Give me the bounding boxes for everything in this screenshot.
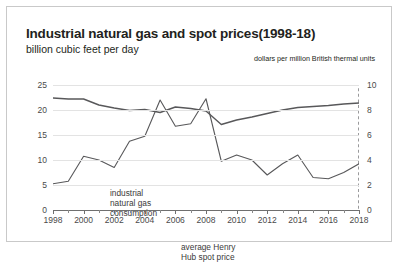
y-tick-left-10: 10 — [27, 156, 47, 165]
x-tick-2010 — [237, 210, 238, 214]
y-tick-right-2: 2 — [367, 181, 387, 190]
y-tick-right-10: 10 — [367, 81, 387, 90]
consumption-line — [53, 98, 359, 125]
gridline-10 — [53, 160, 359, 161]
x-tick-2004 — [145, 210, 146, 214]
plot-area: industrial natural gas consumption avera… — [53, 85, 359, 210]
x-tick-2007 — [191, 210, 192, 213]
y-tick-left-5: 5 — [27, 181, 47, 190]
chart-title: Industrial natural gas and spot prices(1… — [26, 26, 315, 41]
y-tick-right-0: 0 — [367, 206, 387, 215]
x-tick-2013 — [283, 210, 284, 213]
y-tick-left-0: 0 — [27, 206, 47, 215]
y-tick-right-4: 4 — [367, 156, 387, 165]
x-tick-1999 — [68, 210, 69, 213]
gridline-15 — [53, 135, 359, 136]
chart-card: Industrial natural gas and spot prices(1… — [6, 6, 392, 242]
x-tick-2016 — [328, 210, 329, 214]
y-tick-left-20: 20 — [27, 106, 47, 115]
x-tick-2000 — [84, 210, 85, 214]
y-tick-left-15: 15 — [27, 131, 47, 140]
y-tick-left-25: 25 — [27, 81, 47, 90]
gridline-25 — [53, 85, 359, 86]
x-tick-2011 — [252, 210, 253, 213]
x-tick-2005 — [160, 210, 161, 213]
y-tick-right-8: 8 — [367, 106, 387, 115]
left-axis-units-label: billion cubic feet per day — [26, 43, 139, 55]
x-label-2018: 2018 — [341, 216, 377, 225]
x-tick-2008 — [206, 210, 207, 214]
x-tick-2002 — [114, 210, 115, 214]
spot-price-annotation: average Henry Hub spot price — [181, 243, 235, 263]
y-tick-right-6: 6 — [367, 131, 387, 140]
x-tick-2009 — [221, 210, 222, 213]
consumption-annotation: industrial natural gas consumption — [110, 189, 157, 218]
x-tick-2006 — [175, 210, 176, 214]
x-tick-2014 — [298, 210, 299, 214]
x-tick-2015 — [313, 210, 314, 213]
series-lines — [53, 85, 359, 210]
gridline-5 — [53, 185, 359, 186]
x-tick-2018 — [359, 210, 360, 214]
x-tick-2017 — [344, 210, 345, 213]
x-tick-1998 — [53, 210, 54, 214]
right-axis-units-label: dollars per million British thermal unit… — [254, 54, 375, 63]
x-tick-2003 — [130, 210, 131, 213]
x-tick-2012 — [267, 210, 268, 214]
x-tick-2001 — [99, 210, 100, 213]
gridline-20 — [53, 110, 359, 111]
